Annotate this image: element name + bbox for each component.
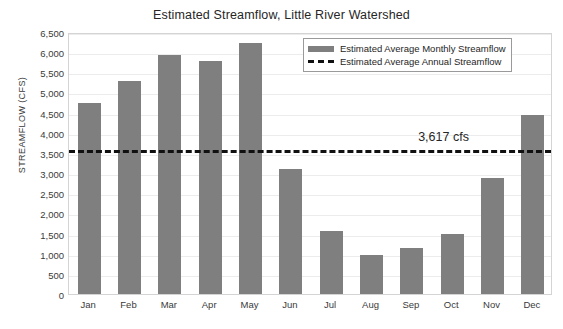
y-axis-tick-label: 2,000 (18, 209, 64, 220)
y-axis-tick-label: 5,000 (18, 88, 64, 99)
gridline (69, 215, 551, 216)
legend-item-annual: Estimated Average Annual Streamflow (308, 55, 506, 68)
plot-area: 3,617 cfs (68, 33, 552, 295)
bar-nov (481, 178, 504, 294)
gridline (69, 34, 551, 35)
y-axis-tick-label: 4,000 (18, 128, 64, 139)
y-axis-tick-label: 0 (18, 290, 64, 301)
x-axis-tick-label-feb: Feb (120, 299, 136, 310)
y-axis-tick-label: 5,500 (18, 68, 64, 79)
y-axis-tick-label: 3,500 (18, 148, 64, 159)
bar-jun (279, 169, 302, 294)
gridline (69, 276, 551, 277)
x-axis-tick-label-dec: Dec (523, 299, 540, 310)
x-axis-tick-label-mar: Mar (161, 299, 177, 310)
y-axis-tick-labels: 05001,0001,5002,0002,5003,0003,5004,0004… (18, 33, 64, 295)
gridline (69, 195, 551, 196)
gridline (69, 175, 551, 176)
bar-dec (521, 115, 544, 294)
x-axis-tick-label-may: May (241, 299, 259, 310)
bar-may (239, 43, 262, 294)
bar-jul (320, 231, 343, 294)
x-axis-tick-label-apr: Apr (202, 299, 217, 310)
x-axis-tick-label-jun: Jun (282, 299, 297, 310)
bar-oct (441, 234, 464, 294)
y-axis-tick-label: 1,500 (18, 229, 64, 240)
legend-dashed-line-swatch-icon (308, 60, 334, 63)
bar-aug (360, 255, 383, 294)
gridline (69, 115, 551, 116)
gridline (69, 236, 551, 237)
bar-feb (118, 81, 141, 294)
chart-legend: Estimated Average Monthly Streamflow Est… (303, 38, 512, 72)
gridline (69, 256, 551, 257)
x-axis-tick-label-jul: Jul (324, 299, 336, 310)
x-axis-tick-label-sep: Sep (402, 299, 419, 310)
y-axis-tick-label: 2,500 (18, 189, 64, 200)
y-axis-tick-label: 1,000 (18, 249, 64, 260)
bar-sep (400, 248, 423, 294)
x-axis-tick-labels: JanFebMarAprMayJunJulAugSepOctNovDec (68, 299, 552, 317)
y-axis-tick-label: 6,000 (18, 48, 64, 59)
gridline (69, 155, 551, 156)
x-axis-tick-label-oct: Oct (444, 299, 459, 310)
y-axis-tick-label: 3,000 (18, 169, 64, 180)
legend-label-monthly: Estimated Average Monthly Streamflow (340, 43, 506, 54)
chart-title: Estimated Streamflow, Little River Water… (0, 8, 563, 22)
x-axis-tick-label-jan: Jan (80, 299, 95, 310)
x-axis-tick-label-nov: Nov (483, 299, 500, 310)
average-annual-line (69, 150, 551, 153)
bar-apr (199, 61, 222, 294)
gridline (69, 74, 551, 75)
legend-bar-swatch-icon (308, 46, 334, 52)
bar-mar (158, 55, 181, 294)
y-axis-tick-label: 500 (18, 269, 64, 280)
average-annual-annotation: 3,617 cfs (418, 130, 469, 144)
gridline (69, 94, 551, 95)
x-axis-tick-label-aug: Aug (362, 299, 379, 310)
legend-item-monthly: Estimated Average Monthly Streamflow (308, 42, 506, 55)
bar-jan (78, 103, 101, 294)
y-axis-tick-label: 4,500 (18, 108, 64, 119)
y-axis-tick-label: 6,500 (18, 28, 64, 39)
legend-label-annual: Estimated Average Annual Streamflow (340, 56, 501, 67)
chart-container: Estimated Streamflow, Little River Water… (0, 0, 563, 329)
gridline (69, 135, 551, 136)
